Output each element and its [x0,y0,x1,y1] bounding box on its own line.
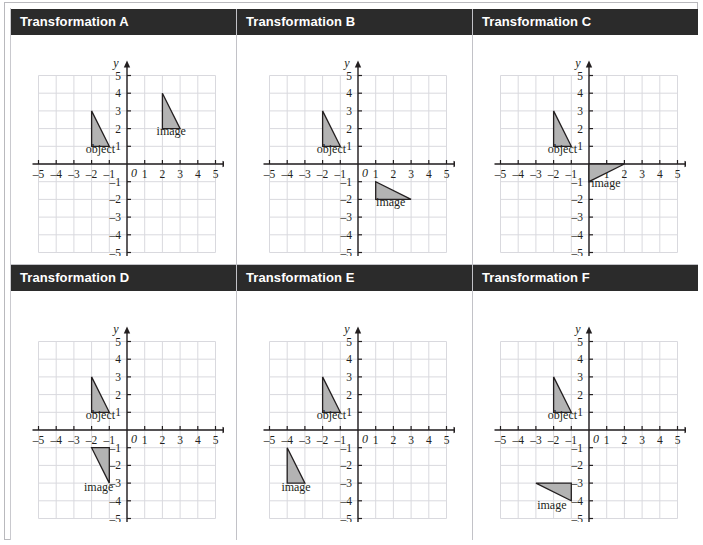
y-tick-label: 1 [577,406,583,418]
x-tick-label: 4 [657,434,663,446]
coordinate-plane: –5–4–3–2–11234554321–1–2–3–4–50xyobjecti… [255,310,455,522]
y-tick-label: 1 [115,406,121,418]
y-tick-label: –3 [571,211,584,223]
y-tick-label: –1 [109,176,122,188]
y-tick-label: –5 [340,247,353,257]
panel-transformation-f: Transformation F–5–4–3–2–11234554321–1–2… [473,265,698,540]
y-tick-label: 3 [115,105,121,117]
x-tick-label: 4 [426,168,432,180]
y-axis-arrowhead [124,61,130,68]
y-tick-label: 5 [577,336,583,348]
panel-title-b: Transformation B [237,9,472,35]
image-label: image [84,480,113,494]
y-tick-label: –1 [109,442,122,454]
y-tick-label: 4 [346,353,352,365]
x-tick-label: 3 [177,434,183,446]
y-tick-label: –2 [571,193,584,205]
coordinate-plane: –5–4–3–2–11234554321–1–2–3–4–50xyobjecti… [255,44,455,256]
y-tick-label: 1 [577,140,583,152]
y-axis-arrowhead [586,327,592,334]
x-tick-label: –4 [511,168,524,180]
y-tick-label: 5 [115,336,121,348]
origin-label: 0 [131,432,137,446]
x-tick-label: 1 [142,434,148,446]
x-tick-label: 2 [622,168,628,180]
y-tick-label: –3 [340,477,353,489]
axes [495,327,687,523]
image-label: image [537,498,566,512]
x-axis-arrowhead [685,427,687,433]
x-tick-label: 4 [657,168,663,180]
panel-title-f: Transformation F [473,265,698,291]
coordinate-plane: –5–4–3–2–11234554321–1–2–3–4–50xyobjecti… [486,44,686,256]
image-label: image [376,195,405,209]
x-tick-label: 5 [444,434,450,446]
y-tick-label: –1 [571,176,584,188]
y-tick-label: 2 [115,123,121,135]
y-tick-label: 1 [346,406,352,418]
y-axis-arrowhead [355,61,361,68]
x-tick-label: 3 [177,168,183,180]
tick-labels: –5–4–3–2–11234554321–1–2–3–4–50xy [32,56,224,257]
y-tick-label: –2 [340,459,353,471]
x-tick-label: 4 [426,434,432,446]
y-tick-label: 3 [346,105,352,117]
y-tick-label: –4 [340,495,353,507]
y-tick-label: –4 [340,229,353,241]
x-tick-label: –5 [494,434,507,446]
panel-title-a: Transformation A [11,9,236,35]
x-tick-label: –5 [32,434,45,446]
x-tick-label: 2 [391,434,397,446]
y-tick-label: –2 [109,193,122,205]
panel-title-e: Transformation E [237,265,472,291]
x-tick-label: –2 [316,168,329,180]
x-tick-label: –5 [32,168,45,180]
coordinate-plane: –5–4–3–2–11234554321–1–2–3–4–50xyobjecti… [486,310,686,522]
y-tick-label: 4 [346,87,352,99]
y-tick-label: 2 [346,123,352,135]
x-axis-arrowhead [454,427,456,433]
panel-transformation-c: Transformation C–5–4–3–2–11234554321–1–2… [473,9,698,265]
y-axis-label: y [112,56,119,70]
axes [33,61,225,257]
x-tick-label: –3 [529,168,542,180]
plot-area-e: –5–4–3–2–11234554321–1–2–3–4–50xyobjecti… [237,291,472,540]
x-tick-label: 4 [195,168,201,180]
coordinate-plane: –5–4–3–2–11234554321–1–2–3–4–50xyobjecti… [24,310,224,522]
y-tick-label: –5 [571,513,584,523]
y-tick-label: –4 [109,229,122,241]
y-tick-label: 3 [115,371,121,383]
x-tick-label: 2 [160,434,166,446]
object-label: object [86,142,116,156]
y-tick-label: 3 [346,371,352,383]
x-tick-label: –2 [85,434,98,446]
y-tick-label: 3 [577,371,583,383]
y-tick-label: 4 [115,353,121,365]
x-tick-label: 5 [675,434,681,446]
x-tick-label: 5 [213,434,219,446]
x-tick-label: –3 [529,434,542,446]
y-axis-label: y [343,322,350,336]
plot-area-a: –5–4–3–2–11234554321–1–2–3–4–50xyobjecti… [11,35,236,264]
y-tick-label: –1 [571,442,584,454]
panel-title-c: Transformation C [473,9,698,35]
x-tick-label: 2 [391,168,397,180]
panel-title-d: Transformation D [11,265,236,291]
x-tick-label: –5 [494,168,507,180]
y-tick-label: –1 [340,176,353,188]
y-tick-label: –3 [340,211,353,223]
y-tick-label: 5 [346,336,352,348]
plot-area-d: –5–4–3–2–11234554321–1–2–3–4–50xyobjecti… [11,291,236,540]
image-label: image [281,480,310,494]
x-tick-label: 1 [373,434,379,446]
y-tick-label: –5 [109,247,122,257]
x-tick-label: –3 [298,168,311,180]
axes [495,61,687,257]
x-tick-label: –3 [298,434,311,446]
y-tick-label: 5 [115,70,121,82]
tick-labels: –5–4–3–2–11234554321–1–2–3–4–50xy [32,322,224,523]
x-tick-label: –4 [49,434,62,446]
y-tick-label: –4 [571,495,584,507]
y-tick-label: –5 [109,513,122,523]
x-tick-label: 4 [195,434,201,446]
